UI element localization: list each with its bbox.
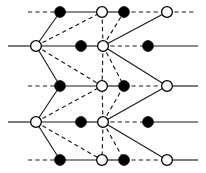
graph-node-open xyxy=(97,155,108,166)
graph-node-open xyxy=(97,7,108,18)
graph-node-filled xyxy=(76,41,87,52)
graph-node-open xyxy=(31,117,42,128)
graph-edge-dashed xyxy=(36,86,102,122)
graph-node-open xyxy=(162,155,173,166)
graph-edge-solid xyxy=(36,46,60,86)
lattice-figure xyxy=(0,0,206,173)
graph-edge-solid xyxy=(36,122,60,160)
graph-edge-solid xyxy=(103,12,167,46)
graph-edge-solid xyxy=(36,86,60,122)
graph-edge-dashed xyxy=(36,46,102,86)
graph-node-filled xyxy=(119,81,130,92)
graph-node-open xyxy=(162,81,173,92)
graph-node-open xyxy=(97,81,108,92)
lattice-svg xyxy=(0,0,206,173)
graph-node-filled xyxy=(55,155,66,166)
graph-node-filled xyxy=(119,7,130,18)
graph-edge-solid xyxy=(103,46,167,86)
graph-edge-solid xyxy=(103,86,167,122)
graph-edge-dashed xyxy=(36,12,102,46)
graph-node-filled xyxy=(119,155,130,166)
graph-edge-solid xyxy=(103,122,167,160)
graph-node-filled xyxy=(143,41,154,52)
graph-node-filled xyxy=(76,117,87,128)
graph-node-open xyxy=(31,41,42,52)
graph-edge-solid xyxy=(36,12,60,46)
graph-edge-dashed xyxy=(36,122,102,160)
graph-node-filled xyxy=(55,81,66,92)
graph-node-open xyxy=(162,7,173,18)
graph-node-filled xyxy=(55,7,66,18)
graph-node-filled xyxy=(143,117,154,128)
graph-node-open xyxy=(98,117,109,128)
graph-node-open xyxy=(98,41,109,52)
